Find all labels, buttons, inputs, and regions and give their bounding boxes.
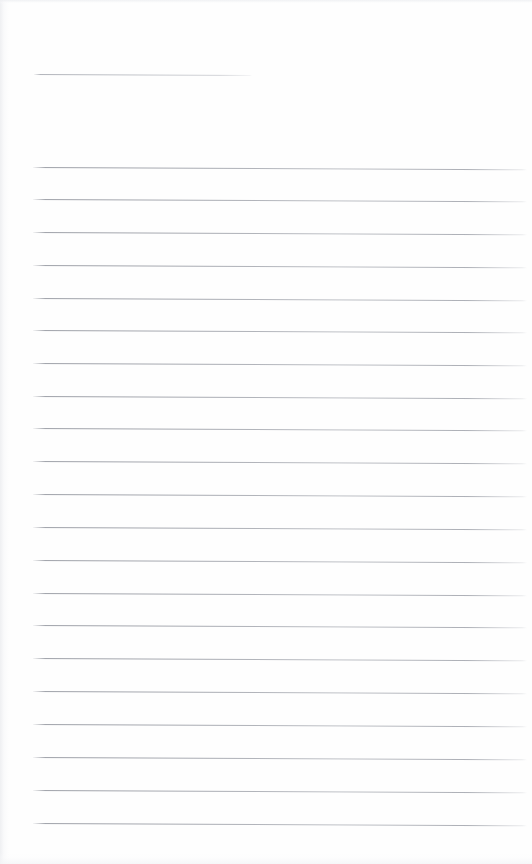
header-rule-ink	[34, 74, 252, 76]
ruled-line-ink	[33, 823, 527, 826]
ruled-line-ink	[33, 298, 527, 301]
ruled-line-ink	[33, 593, 527, 596]
ruled-line-ink	[33, 330, 527, 333]
ruled-line-ink	[33, 691, 527, 694]
paper-edge-shading	[0, 0, 9, 864]
ruled-line	[33, 560, 527, 563]
ruled-line	[33, 757, 527, 760]
scan-smudge-bottom	[0, 852, 532, 864]
ruled-line	[33, 265, 527, 268]
ruled-line	[33, 823, 527, 826]
ruled-line-ink	[33, 428, 527, 431]
ruled-line	[33, 790, 527, 793]
ruled-line-ink	[33, 494, 527, 497]
ruled-line	[33, 167, 527, 170]
ruled-line	[33, 298, 527, 301]
ruled-line-ink	[33, 625, 527, 628]
ruled-line-ink	[33, 527, 527, 530]
ruled-line	[33, 625, 527, 628]
ruled-line	[33, 232, 527, 235]
ruled-line-ink	[33, 265, 527, 268]
ruled-line-ink	[33, 724, 527, 727]
ruled-line-ink	[33, 790, 527, 793]
scan-smudge-top	[0, 0, 532, 4]
ruled-line	[33, 658, 527, 661]
ruled-line	[33, 724, 527, 727]
ruled-line	[33, 330, 527, 333]
ruled-line-ink	[33, 461, 527, 464]
scanned-page	[0, 0, 532, 864]
ruled-line	[33, 396, 527, 399]
ruled-line-ink	[33, 167, 527, 170]
ruled-line-ink	[33, 658, 527, 661]
ruled-line-ink	[33, 232, 527, 235]
ruled-line	[33, 593, 527, 596]
header-rule	[34, 74, 252, 76]
ruled-line-ink	[33, 199, 527, 202]
ruled-line	[33, 494, 527, 497]
ruled-line	[33, 461, 527, 464]
ruled-line	[33, 691, 527, 694]
ruled-line-ink	[33, 560, 527, 563]
ruled-line-ink	[33, 396, 527, 399]
ruled-line	[33, 199, 527, 202]
ruled-line-ink	[33, 363, 527, 366]
ruled-line	[33, 527, 527, 530]
ruled-line	[33, 363, 527, 366]
ruled-line	[33, 428, 527, 431]
ruled-line-ink	[33, 757, 527, 760]
